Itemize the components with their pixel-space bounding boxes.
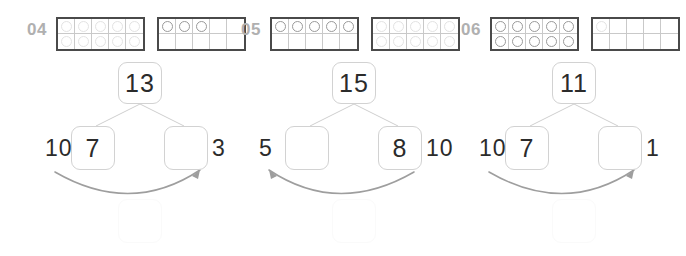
bond-right-part-box[interactable]: 8 (378, 126, 422, 170)
outer-left-number: 10 (45, 137, 73, 160)
frame-cell (58, 34, 75, 49)
frame-cell (627, 34, 644, 49)
counter-dot-icon (78, 21, 89, 32)
bond-answer-box[interactable] (118, 199, 162, 243)
frame-cell (323, 34, 340, 49)
frame-cell (109, 34, 126, 49)
bond-answer-box[interactable] (332, 199, 376, 243)
frame-cell (176, 19, 193, 34)
frame-cell (543, 19, 560, 34)
frame-cell (593, 34, 610, 49)
counter-dot-icon (162, 21, 173, 32)
frame-cell (92, 34, 109, 49)
frame-cell (526, 19, 543, 34)
curved-arrow-icon (489, 170, 634, 194)
bond-left-part-box[interactable]: 7 (505, 126, 549, 170)
frame-cell (176, 34, 193, 49)
problem-04: 04137103 (0, 0, 228, 256)
counter-dot-icon (563, 21, 574, 32)
problem-number-label: 06 (461, 21, 481, 38)
counter-dot-icon (495, 36, 506, 47)
frame-cell (75, 19, 92, 34)
counter-dot-icon (512, 36, 523, 47)
counter-dot-icon (61, 21, 72, 32)
bond-right-part-box[interactable] (598, 126, 642, 170)
frame-cell (644, 19, 661, 34)
counter-dot-icon (95, 21, 106, 32)
counter-dot-icon (529, 21, 540, 32)
counter-dot-icon (546, 21, 557, 32)
frame-cell (526, 34, 543, 49)
counter-dot-icon (129, 36, 140, 47)
counter-dot-icon (529, 36, 540, 47)
frame-cell (593, 19, 610, 34)
frame-cell (390, 19, 407, 34)
frame-cell (390, 34, 407, 49)
frame-cell (340, 34, 357, 49)
outer-left-number: 10 (479, 137, 507, 160)
counter-dot-icon (393, 36, 404, 47)
ten-frame-1 (270, 17, 359, 51)
frame-cell (543, 34, 560, 49)
frame-cell (289, 19, 306, 34)
bond-left-part-box[interactable]: 7 (71, 126, 115, 170)
frame-cell (373, 19, 390, 34)
bond-right-part-box[interactable] (164, 126, 208, 170)
frame-cell (560, 19, 577, 34)
frame-cell (92, 19, 109, 34)
curved-arrow-icon (55, 170, 200, 194)
frame-cell (373, 34, 390, 49)
counter-dot-icon (393, 21, 404, 32)
frame-cell (661, 19, 678, 34)
ten-frame-1 (490, 17, 579, 51)
bond-total-box[interactable]: 11 (552, 62, 596, 104)
problem-number-label: 05 (241, 21, 261, 38)
bond-answer-box[interactable] (552, 199, 596, 243)
frame-cell (159, 19, 176, 34)
frame-cell (492, 34, 509, 49)
problem-05: 05158510 (214, 0, 442, 256)
frame-cell (627, 19, 644, 34)
bond-line-right (354, 104, 398, 126)
frame-cell (407, 34, 424, 49)
frame-cell (159, 34, 176, 49)
problem-number-label: 04 (27, 21, 47, 38)
counter-dot-icon (112, 36, 123, 47)
counter-dot-icon (326, 21, 337, 32)
bond-line-left (530, 104, 574, 126)
frame-cell (126, 19, 143, 34)
frame-cell (289, 34, 306, 49)
frame-cell (644, 34, 661, 49)
bond-total-box[interactable]: 13 (118, 62, 162, 104)
counter-dot-icon (495, 21, 506, 32)
counter-dot-icon (112, 21, 123, 32)
counter-dot-icon (275, 21, 286, 32)
counter-dot-icon (376, 36, 387, 47)
counter-dot-icon (61, 36, 72, 47)
frame-cell (109, 19, 126, 34)
bond-line-left (310, 104, 354, 126)
frame-cell (661, 34, 678, 49)
frame-cell (610, 19, 627, 34)
frame-cell (58, 19, 75, 34)
frame-cell (560, 34, 577, 49)
bond-line-right (140, 104, 184, 126)
counter-dot-icon (179, 21, 190, 32)
frame-cell (272, 34, 289, 49)
arrow-head-icon (269, 170, 277, 179)
ten-frame-group (490, 17, 680, 51)
worksheet-canvas: 041371030515851006117101 (0, 0, 686, 256)
frame-cell (193, 34, 210, 49)
counter-dot-icon (95, 36, 106, 47)
ten-frame-2 (591, 17, 680, 51)
counter-dot-icon (292, 21, 303, 32)
ten-frame-1 (56, 17, 145, 51)
bond-left-part-box[interactable] (285, 126, 329, 170)
frame-cell (340, 19, 357, 34)
arrow-head-icon (626, 170, 634, 179)
counter-dot-icon (376, 21, 387, 32)
problem-06: 06117101 (434, 0, 662, 256)
frame-cell (193, 19, 210, 34)
bond-total-box[interactable]: 15 (332, 62, 376, 104)
frame-cell (306, 34, 323, 49)
